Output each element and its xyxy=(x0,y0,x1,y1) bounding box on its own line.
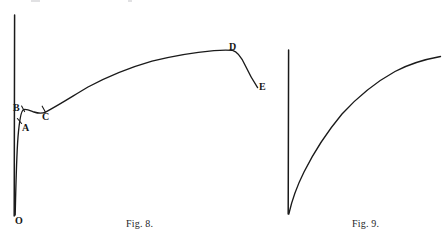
figures-drawing xyxy=(0,0,443,243)
fig8-label-d: D xyxy=(229,42,236,52)
fig8-label-e: E xyxy=(259,82,266,92)
fig8-label-o: O xyxy=(15,216,23,226)
fig8-curve xyxy=(15,50,232,215)
figure-9-caption: Fig. 9. xyxy=(352,218,379,229)
figure-page: O A B C D E Fig. 8. Fig. 9. xyxy=(0,0,443,243)
figure-8-caption: Fig. 8. xyxy=(126,218,153,229)
fig8-label-a: A xyxy=(22,123,29,133)
fig8-label-b: B xyxy=(13,103,20,113)
figure-8-group xyxy=(14,15,257,216)
fig8-label-c: C xyxy=(42,112,49,122)
fig8-curve-fracture-branch xyxy=(233,50,258,87)
fig9-curve xyxy=(289,57,441,215)
figure-9-group xyxy=(288,50,440,214)
